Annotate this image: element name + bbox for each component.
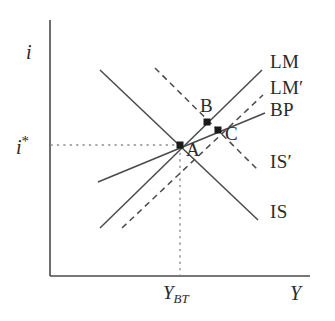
islm-bp-diagram: i i* Y YBT LM LM′ BP IS′ IS A B C [0,0,335,321]
point-marker-b [204,119,211,126]
point-marker-a [177,142,184,149]
y-axis-tick-label-istar: i* [16,134,29,157]
x-axis-label: Y [290,283,301,303]
ybt-subscript: BT [174,291,189,306]
ybt-base: Y [163,282,174,303]
curve-label-is: IS [270,202,288,221]
y-axis-label: i [26,42,32,62]
curve-lm-prime [122,95,263,228]
curve-label-lm: LM [270,52,299,71]
point-label-a: A [186,140,200,159]
x-axis-tick-label-ybt: YBT [163,283,189,302]
point-marker-c [215,127,222,134]
point-label-b: B [200,96,213,115]
curve-label-is-prime: IS′ [270,152,292,171]
istar-star: * [22,133,30,149]
curve-label-bp: BP [270,100,294,119]
curve-label-lm-prime: LM′ [270,78,304,97]
point-label-c: C [225,124,238,143]
